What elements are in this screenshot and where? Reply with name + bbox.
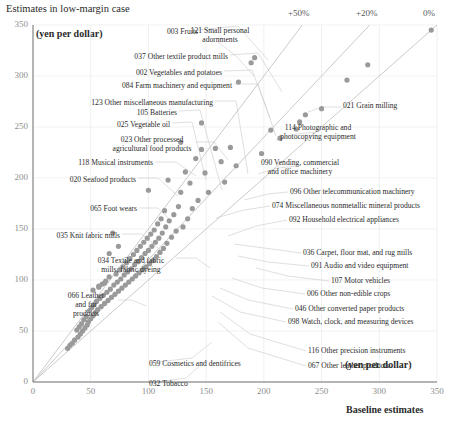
annotation-032: 032 Tobacco xyxy=(149,379,188,388)
data-point xyxy=(111,283,116,288)
data-point xyxy=(193,156,198,161)
leader-line xyxy=(232,278,305,294)
data-point xyxy=(96,284,101,289)
reference-label-+20%: +20% xyxy=(356,8,378,18)
data-point xyxy=(134,248,139,253)
annotation-023: 023 Other processed agricultural food pr… xyxy=(62,135,242,153)
data-point xyxy=(429,28,434,33)
annotation-067: 067 Other leather products xyxy=(308,361,389,370)
data-point xyxy=(174,228,179,233)
data-point xyxy=(65,346,70,351)
data-point xyxy=(176,204,181,209)
annotation-114: 114 Photographic and photocopying equipm… xyxy=(228,123,408,141)
annotation-036: 036 Carpet, floor mat, and rug mills xyxy=(303,248,412,257)
data-point xyxy=(161,246,166,251)
data-point xyxy=(163,224,168,229)
annotation-021: 021 Grain milling xyxy=(343,101,397,110)
annotation-025: 025 Vegetable oil xyxy=(0,120,170,129)
data-point xyxy=(164,241,169,246)
data-point xyxy=(152,227,157,232)
leader-line xyxy=(220,288,293,309)
data-point xyxy=(155,221,160,226)
x-tick-300: 300 xyxy=(364,386,394,396)
reference-label-0%: 0% xyxy=(423,8,435,18)
annotation-096: 096 Other telecommunication machinery xyxy=(290,187,415,196)
data-point xyxy=(344,77,349,82)
data-point xyxy=(303,112,308,117)
leader-line xyxy=(228,220,287,236)
data-point xyxy=(169,235,174,240)
annotation-065: 065 Foot wears xyxy=(0,204,137,213)
annotation-121: 121 Small personal adornments xyxy=(130,26,310,44)
y-tick-0: 0 xyxy=(4,376,28,386)
data-point xyxy=(185,216,190,221)
data-point xyxy=(171,212,176,217)
leader-line xyxy=(216,206,270,218)
annotation-006: 006 Other non-edible crops xyxy=(307,289,390,298)
annotation-092: 092 Household electrical appliances xyxy=(289,215,399,224)
annotation-123: 123 Other miscellaneous manufacturing xyxy=(0,98,213,107)
annotation-084: 084 Farm machinery and equipment xyxy=(0,81,232,90)
data-point xyxy=(195,198,200,203)
data-point xyxy=(160,230,165,235)
annotation-107: 107 Motor vehicles xyxy=(331,276,390,285)
annotation-074: 074 Miscellaneous nonmetallic mineral pr… xyxy=(272,201,420,210)
data-point xyxy=(153,240,158,245)
data-point xyxy=(141,240,146,245)
data-point xyxy=(190,206,195,211)
data-point xyxy=(199,120,204,125)
leader-line xyxy=(238,256,309,266)
y-tick-100: 100 xyxy=(4,274,28,284)
data-point xyxy=(222,179,227,184)
data-point xyxy=(319,106,324,111)
data-point xyxy=(138,244,143,249)
data-point xyxy=(180,224,185,229)
x-tick-0: 0 xyxy=(18,386,48,396)
data-point xyxy=(156,236,161,241)
data-point xyxy=(148,232,153,237)
x-axis-title: Baseline estimates xyxy=(346,404,424,415)
data-point xyxy=(157,250,162,255)
annotation-035: 035 Knit fabric mills xyxy=(0,231,120,240)
data-point xyxy=(145,236,150,241)
chart-root: Estimates in low-margin case (yen per do… xyxy=(0,0,453,425)
data-point xyxy=(206,190,211,195)
data-point xyxy=(74,327,79,332)
annotation-046: 046 Other converted paper products xyxy=(295,304,404,313)
data-point xyxy=(162,208,167,213)
reference-label-+50%: +50% xyxy=(288,8,310,18)
data-point xyxy=(236,80,241,85)
data-point xyxy=(149,244,154,249)
x-tick-250: 250 xyxy=(307,386,337,396)
data-point xyxy=(107,274,112,279)
data-point xyxy=(167,218,172,223)
leader-line xyxy=(234,244,301,253)
data-point xyxy=(178,190,183,195)
annotation-098: 098 Watch, clock, and measuring devices xyxy=(288,317,414,326)
x-tick-200: 200 xyxy=(249,386,279,396)
y-tick-50: 50 xyxy=(4,325,28,335)
data-point xyxy=(146,188,151,193)
leader-line xyxy=(244,192,288,200)
data-point xyxy=(102,280,107,285)
annotation-037: 037 Other textile product mills xyxy=(0,52,228,61)
x-tick-150: 150 xyxy=(191,386,221,396)
leader-line xyxy=(138,178,178,196)
annotation-091: 091 Audio and video equipment xyxy=(311,261,408,270)
data-point xyxy=(165,177,170,182)
annotation-059: 059 Cosmetics and dentifrices xyxy=(149,359,241,368)
annotation-105: 105 Batteries xyxy=(0,108,177,117)
x-tick-350: 350 xyxy=(422,386,452,396)
data-point xyxy=(187,181,192,186)
data-point xyxy=(202,170,207,175)
data-point xyxy=(159,216,164,221)
annotation-002: 002 Vegetables and potatoes xyxy=(0,68,222,77)
annotation-020: 020 Seafood products xyxy=(0,175,136,184)
annotation-034: 034 Textile and fabric mills, fabric dye… xyxy=(41,256,221,274)
leader-line xyxy=(308,107,341,112)
data-point xyxy=(183,169,188,174)
annotation-118: 118 Musical instruments xyxy=(0,158,153,167)
chart-title: Estimates in low-margin case xyxy=(6,3,130,14)
annotation-090: 090 Vending, commercial and office machi… xyxy=(210,158,390,176)
x-tick-50: 50 xyxy=(76,386,106,396)
